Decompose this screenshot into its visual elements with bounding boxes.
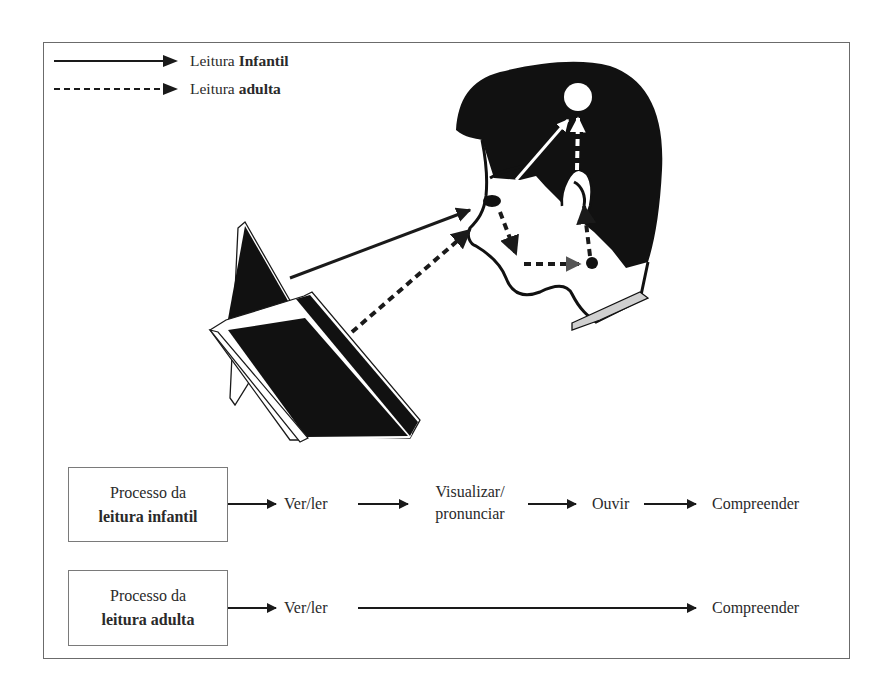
process-box-line1: Processo da [69,584,227,608]
open-book-icon [210,222,420,442]
legend-label-prefix: Leitura [190,52,235,69]
step-compreender: Compreender [712,493,799,515]
legend-item-child-reading: Leitura Infantil [190,52,289,70]
legend-solid-arrow-icon [54,55,178,67]
step-ver-ler: Ver/ler [284,493,328,515]
adult-process-box: Processo da leitura adulta [68,570,228,646]
legend-label-bold: adulta [239,80,281,97]
legend-label-prefix: Leitura [190,80,235,97]
step-ouvir: Ouvir [592,493,629,515]
process-box-line1: Processo da [69,481,227,505]
head-profile-icon [456,62,662,330]
step-visualizar: Visualizar/ pronunciar [420,481,520,525]
process-box-line2: leitura infantil [69,505,227,529]
legend-item-adult-reading: Leitura adulta [190,80,281,98]
step-ver-ler: Ver/ler [284,597,328,619]
step-compreender: Compreender [712,597,799,619]
step-visualizar-line2: pronunciar [420,503,520,525]
child-process-box: Processo da leitura infantil [68,467,228,542]
process-box-line2: leitura adulta [69,608,227,632]
legend-label-bold: Infantil [239,52,289,69]
step-visualizar-line1: Visualizar/ [420,481,520,503]
legend-dashed-arrow-icon [54,83,178,95]
